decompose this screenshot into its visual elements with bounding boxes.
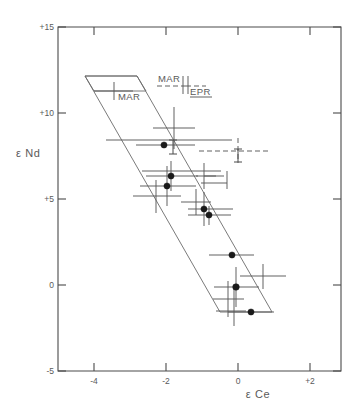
y-axis-ticks	[58, 27, 341, 371]
y-tick-label-5: +5	[44, 194, 54, 204]
error-cross	[196, 163, 224, 189]
error-cross	[133, 180, 181, 213]
x-axis-title: ε Ce	[246, 388, 270, 400]
x-tick-label-0: 0	[236, 376, 241, 386]
epr-dashed-error-bar	[199, 138, 271, 163]
error-cap-marker	[169, 140, 177, 154]
data-point	[140, 166, 196, 206]
y-tick-label-15: +15	[40, 22, 55, 32]
y-tick-label-0: 0	[49, 280, 54, 290]
plot-frame	[58, 27, 341, 371]
y-axis-title: ε Nd	[16, 147, 40, 159]
correlation-band	[85, 76, 272, 312]
x-tick-label-neg4: -4	[90, 376, 98, 386]
legend-epr-label: EPR	[190, 86, 211, 97]
y-tick-label-neg5: -5	[46, 366, 54, 376]
data-point	[136, 142, 195, 148]
data-point	[228, 309, 274, 315]
x-tick-labels: -4 -2 0 +2	[90, 376, 315, 386]
scatter-plot-svg: +15 +10 +5 0 -5 -4 -2 0 +2 ε Nd ε Ce MAR	[0, 0, 359, 412]
data-point-group	[136, 142, 274, 315]
legend-mar-label: MAR	[158, 73, 180, 84]
error-cross	[216, 288, 246, 326]
error-cross-group	[106, 107, 286, 326]
x-tick-label-pos2: +2	[305, 376, 315, 386]
y-tick-labels: +15 +10 +5 0 -5	[40, 22, 55, 376]
error-cross	[153, 107, 195, 149]
x-axis-ticks	[94, 27, 310, 371]
figure-container: +15 +10 +5 0 -5 -4 -2 0 +2 ε Nd ε Ce MAR	[0, 0, 359, 412]
y-tick-label-10: +10	[40, 108, 55, 118]
data-point	[188, 192, 233, 226]
data-point	[209, 252, 254, 258]
x-tick-label-neg2: -2	[162, 376, 170, 386]
legend-mar-epr: MAR EPR	[157, 73, 212, 97]
data-point	[214, 267, 259, 307]
mar-band-label: MAR	[118, 91, 140, 102]
mar-band-marker: MAR	[85, 76, 146, 102]
data-point	[146, 161, 198, 191]
error-cross	[201, 171, 227, 189]
